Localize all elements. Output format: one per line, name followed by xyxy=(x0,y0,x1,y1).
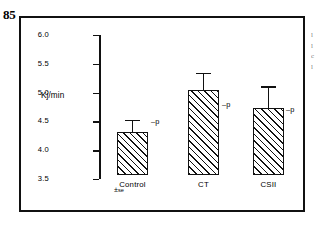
bar-group-ct: –p CT xyxy=(188,90,219,175)
x-tick-label-ct: CT xyxy=(198,181,209,189)
y-axis-tick xyxy=(93,179,99,180)
error-bar-stem xyxy=(268,88,270,108)
figure-frame: Kj/min 6.0 5.5 5.0 4.5 4.0 3.5 –p Contro… xyxy=(19,16,305,212)
margin-text-line: l xyxy=(311,30,325,41)
y-axis-line xyxy=(99,35,101,179)
bar-group-control: –p Control xyxy=(117,132,148,175)
bar-control[interactable] xyxy=(117,132,148,175)
bar-group-csii: –p CSII xyxy=(253,108,284,175)
error-bar-cap xyxy=(261,86,276,88)
margin-text-line: l xyxy=(311,62,325,73)
y-axis-tick xyxy=(93,64,99,65)
y-axis-tick-label: 5.0 xyxy=(9,89,49,97)
y-axis-tick xyxy=(93,35,99,36)
page-margin-text: l l c l xyxy=(311,30,325,72)
y-axis-tick xyxy=(93,93,99,94)
p-annotation-ct: –p xyxy=(222,101,230,108)
se-label: se xyxy=(118,187,124,193)
standard-error-note: ±se xyxy=(114,186,124,194)
y-axis-tick-label: 5.5 xyxy=(9,60,49,68)
y-axis-tick-label: 4.5 xyxy=(9,117,49,125)
error-bar-stem xyxy=(203,74,205,90)
page-number: 85 xyxy=(3,8,15,21)
bar-ct[interactable] xyxy=(188,90,219,175)
y-axis-tick-label: 6.0 xyxy=(9,31,49,39)
y-axis-tick xyxy=(93,150,99,151)
y-axis-tick-label: 4.0 xyxy=(9,146,49,154)
error-bar-stem xyxy=(132,121,134,131)
p-annotation-control: –p xyxy=(151,118,159,125)
y-axis-tick xyxy=(93,121,99,122)
bar-csii[interactable] xyxy=(253,108,284,175)
error-bar-cap xyxy=(196,73,211,75)
error-bar-cap xyxy=(125,120,140,122)
plot-area: Kj/min 6.0 5.5 5.0 4.5 4.0 3.5 –p Contro… xyxy=(21,18,303,210)
margin-text-line: c xyxy=(311,51,325,62)
p-annotation-csii: –p xyxy=(286,106,294,113)
x-tick-label-csii: CSII xyxy=(261,181,277,189)
y-axis-tick-label: 3.5 xyxy=(9,175,49,183)
margin-text-line: l xyxy=(311,41,325,52)
